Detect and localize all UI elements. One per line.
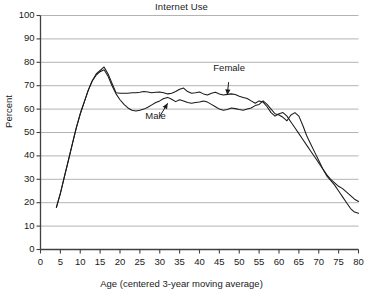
line-male — [56, 70, 358, 213]
annotation-arrows — [159, 82, 230, 117]
axis-tickmarks — [37, 16, 359, 254]
annotation-label-female: Female — [213, 62, 245, 73]
data-series — [56, 67, 358, 213]
annotation-label-male: Male — [145, 110, 166, 121]
line-female — [56, 67, 358, 207]
gridlines — [41, 16, 359, 227]
